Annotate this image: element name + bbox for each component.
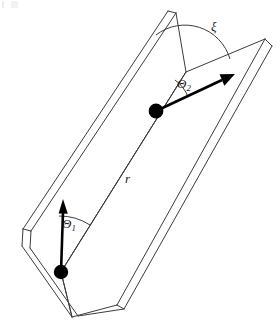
theta2-subscript: 2 (186, 83, 191, 93)
geometry-diagram-svg: Θ1 Θ2 ξ r (0, 0, 280, 333)
xi-label: ξ (211, 19, 217, 34)
lower-particle (54, 265, 68, 279)
upper-particle (149, 104, 164, 119)
figure-container: Θ1 Θ2 ξ r (0, 0, 280, 333)
right-panel-bottom-inner-edge (78, 309, 124, 316)
right-panel-corner-cap (265, 39, 272, 46)
theta1-subscript: 1 (71, 223, 75, 233)
left-panel-near-thickness-left (22, 229, 23, 246)
left-panel-top-cap (168, 11, 176, 13)
right-panel-near-end-cap (117, 305, 124, 309)
